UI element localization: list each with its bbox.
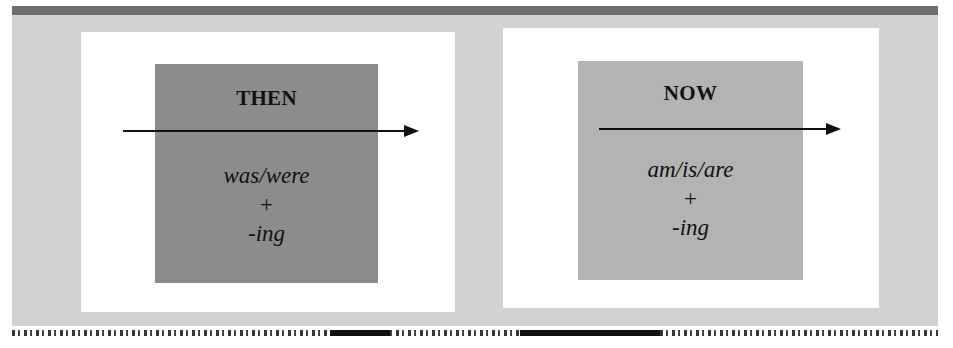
- then-panel: THEN was/were + -ing: [81, 32, 455, 312]
- bottom-scan-artifact-solid-2: [330, 330, 390, 336]
- now-panel: NOW am/is/are + -ing: [503, 28, 879, 308]
- now-square: NOW am/is/are + -ing: [578, 61, 803, 280]
- then-suffix: -ing: [155, 219, 378, 248]
- bottom-scan-artifact-solid: [520, 330, 660, 336]
- then-formula: was/were + -ing: [155, 161, 378, 248]
- now-timeline-arrow-icon: [599, 128, 827, 130]
- then-plus: +: [155, 190, 378, 219]
- bottom-scan-artifact: [12, 330, 938, 336]
- top-band: [12, 6, 938, 15]
- then-timeline-arrow-icon: [123, 130, 405, 132]
- now-plus: +: [578, 184, 803, 213]
- then-square: THEN was/were + -ing: [155, 64, 378, 283]
- then-heading: THEN: [155, 86, 378, 111]
- now-formula: am/is/are + -ing: [578, 155, 803, 242]
- now-suffix: -ing: [578, 213, 803, 242]
- now-verb: am/is/are: [578, 155, 803, 184]
- now-heading: NOW: [578, 81, 803, 106]
- then-verb: was/were: [155, 161, 378, 190]
